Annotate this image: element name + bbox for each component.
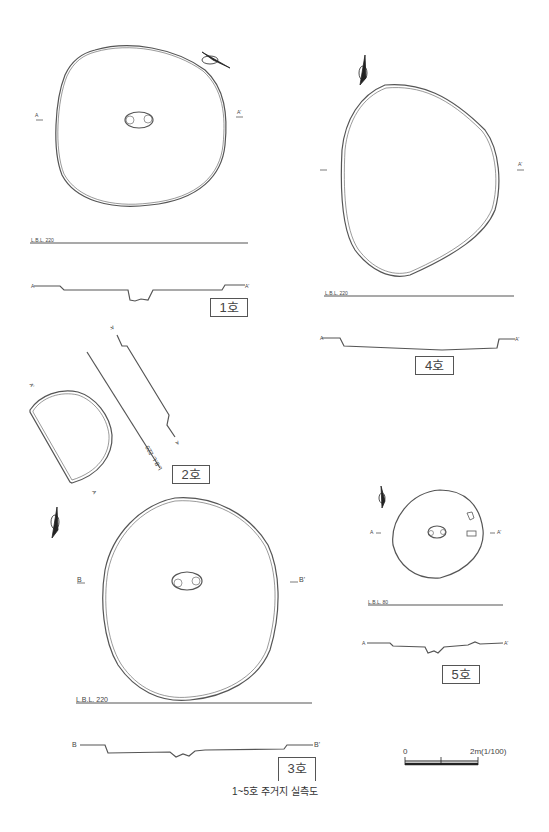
house-3-lbl-label: L.B.L. 220 <box>76 696 108 703</box>
section-point-a-prime: A' <box>518 161 522 167</box>
house-5-section-profile <box>367 642 503 653</box>
house-1-hearth <box>125 112 153 128</box>
house-3-plan-b: B <box>77 576 82 583</box>
north-arrow-icon-house-5 <box>379 486 385 508</box>
house-4-label: 4호 <box>415 356 454 375</box>
house-4-plan-outline <box>341 85 499 277</box>
house-5-pit-1 <box>467 512 474 520</box>
house-2-label: 2호 <box>172 465 210 484</box>
house-2-plan-outline <box>30 391 112 483</box>
house-1-section-end: A' <box>245 283 249 289</box>
house-1-label: 1호 <box>210 298 248 317</box>
house-4-section-profile <box>322 338 515 350</box>
house-1-section-start: A <box>31 283 34 289</box>
house-1-plan-outline <box>56 46 226 207</box>
north-arrow-icon-house-3 <box>51 507 59 538</box>
house-5-hearth <box>428 526 446 538</box>
house-5-pit-2 <box>467 531 476 536</box>
scale-bar <box>405 757 478 765</box>
house-4-section-start: A <box>320 335 323 341</box>
house-5-section-end: A' <box>504 640 508 646</box>
house-5-plan-a-prime: A' <box>497 529 501 535</box>
house-4-lbl-label: L.B.L. 220 <box>325 290 348 296</box>
house-5-section-start: A <box>362 640 365 646</box>
section-point-a-prime: A' <box>237 109 241 115</box>
house-3-section-profile <box>80 745 313 757</box>
house-3-section-end: B' <box>314 741 320 748</box>
house-3-hearth <box>172 572 202 590</box>
house-3-plan-outline <box>103 498 278 701</box>
section-point-a: A <box>35 112 38 118</box>
drawing-canvas <box>0 0 549 832</box>
house-3-label: 3호 <box>278 757 316 781</box>
house-2-section-profile <box>117 335 175 437</box>
scale-zero-label: 0 <box>403 747 407 756</box>
north-arrow-icon-house-1 <box>202 52 230 68</box>
house-5-lbl-label: L.B.L. 80 <box>368 599 388 605</box>
house-4-section-end: A' <box>515 336 519 342</box>
figure-caption: 1~5호 주거지 실측도 <box>232 783 318 798</box>
house-3-plan-b-prime: B' <box>299 576 305 583</box>
house-5-plan-outline <box>393 490 483 578</box>
scale-end-label: 2m(1/100) <box>470 747 506 756</box>
house-5-plan-a: A <box>370 529 373 535</box>
house-5-label: 5호 <box>442 665 480 684</box>
north-arrow-icon-house-4 <box>359 55 367 85</box>
house-3-section-start: B <box>72 741 77 748</box>
house-1-lbl-label: L.B.L. 220 <box>31 237 54 243</box>
